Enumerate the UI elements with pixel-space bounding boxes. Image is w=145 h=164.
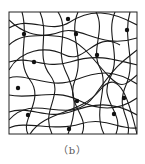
fiber (9, 13, 137, 28)
crosslink-node (112, 112, 116, 116)
crosslink-node (22, 32, 26, 36)
crosslink-node (122, 96, 126, 100)
crosslink-node (32, 60, 36, 64)
fiber (9, 41, 120, 70)
crosslink-node (75, 99, 79, 103)
fiber (9, 58, 137, 65)
crosslink-node (95, 53, 99, 57)
crosslink-node (16, 86, 20, 90)
figure-caption: （b） (0, 142, 145, 157)
fiber (73, 12, 84, 134)
crosslink-node (66, 17, 70, 21)
crosslink-node (26, 113, 30, 117)
crosslink-node (74, 32, 78, 36)
fiber-network-diagram (0, 0, 145, 164)
fiber (9, 73, 137, 84)
fiber (40, 12, 55, 134)
crosslink-node (67, 127, 71, 131)
crosslink-node (125, 28, 129, 32)
